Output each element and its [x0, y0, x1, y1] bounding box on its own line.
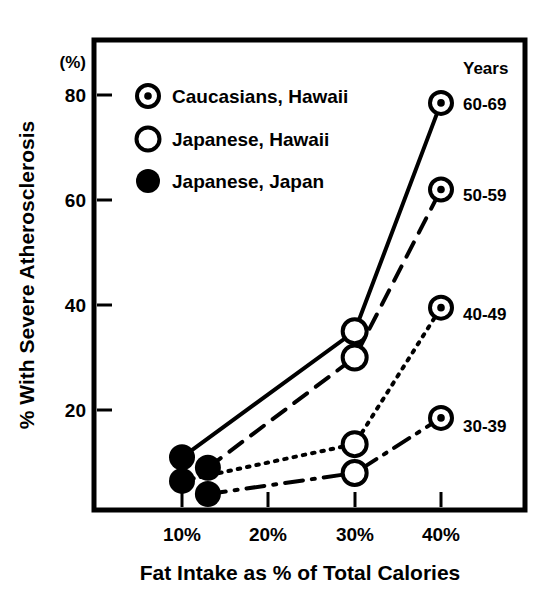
y-tick-label-40: 40: [65, 295, 86, 316]
data-point-50-59-bullseye: [430, 179, 452, 201]
series-label-60-69: 60-69: [463, 95, 506, 114]
legend-item-japanese-hawaii: Japanese, Hawaii: [172, 129, 329, 150]
y-axis-title: % With Severe Atherosclerosis: [15, 121, 38, 429]
y-axis-unit-label: (%): [60, 53, 86, 72]
data-point-40-49-bullseye: [430, 297, 452, 319]
legend-marker-bullseye: [137, 85, 159, 107]
plot-frame: [94, 40, 525, 510]
legend-item-caucasians-hawaii: Caucasians, Hawaii: [172, 86, 348, 107]
data-point-30-39-filled-circle: [195, 481, 221, 507]
chart-figure: 80 60 40 20 (%) 10% 20% 30% 40% Fat Inta…: [0, 0, 550, 604]
y-tick-label-60: 60: [65, 190, 86, 211]
x-axis-title: Fat Intake as % of Total Calories: [140, 561, 461, 584]
legend-marker-open-circle: [137, 128, 160, 151]
data-point-60-69-bullseye: [430, 92, 452, 114]
series-label-header: Years: [463, 59, 508, 78]
x-tick-label-30: 30%: [336, 524, 374, 545]
y-tick-label-20: 20: [65, 400, 86, 421]
series-label-40-49: 40-49: [463, 305, 506, 324]
data-point-40-49-filled-circle: [169, 468, 195, 494]
x-tick-label-40: 40%: [422, 524, 460, 545]
data-point-30-39-open-circle: [343, 461, 367, 485]
series-label-50-59: 50-59: [463, 186, 506, 205]
legend-item-japanese-japan: Japanese, Japan: [172, 171, 324, 192]
data-point-60-69-open-circle: [343, 319, 367, 343]
series-label-30-39: 30-39: [463, 417, 506, 436]
data-point-50-59-filled-circle: [195, 455, 221, 481]
data-point-50-59-open-circle: [343, 346, 367, 370]
data-point-60-69-filled-circle: [169, 444, 195, 470]
x-tick-label-10: 10%: [163, 524, 201, 545]
data-point-40-49-open-circle: [343, 432, 367, 456]
y-tick-label-80: 80: [65, 85, 86, 106]
data-point-30-39-bullseye: [430, 407, 452, 429]
legend-marker-filled-circle: [136, 169, 160, 193]
x-tick-label-20: 20%: [249, 524, 287, 545]
